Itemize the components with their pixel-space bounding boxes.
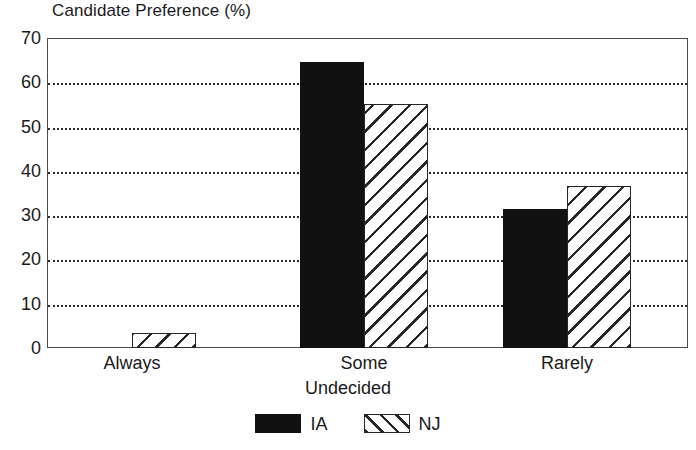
x-axis-tick-label: Some bbox=[294, 352, 434, 374]
y-axis-tick-label: 60 bbox=[1, 73, 41, 91]
chart-legend: IANJ bbox=[0, 414, 696, 433]
y-axis-tick-label: 30 bbox=[1, 206, 41, 224]
y-axis-tick-label: 50 bbox=[1, 118, 41, 136]
gridline bbox=[48, 305, 687, 307]
y-axis-tick-label: 20 bbox=[1, 250, 41, 268]
gridline bbox=[48, 83, 687, 85]
y-axis-tick-label: 0 bbox=[1, 339, 41, 357]
x-axis-tick-label: Always bbox=[62, 352, 202, 374]
y-axis-tick-label: 70 bbox=[1, 29, 41, 47]
gridline bbox=[48, 260, 687, 262]
gridline bbox=[48, 216, 687, 218]
x-axis-title: Undecided bbox=[0, 378, 696, 399]
y-axis-tick-label: 40 bbox=[1, 162, 41, 180]
x-axis-tick-label: Rarely bbox=[497, 352, 637, 374]
plot-area bbox=[47, 38, 688, 348]
y-axis-tick-labels: 010203040506070 bbox=[0, 38, 41, 348]
legend-label: IA bbox=[310, 415, 327, 433]
gridline bbox=[48, 128, 687, 130]
solid-black-swatch bbox=[255, 414, 301, 433]
bar-chart: Candidate Preference (%) 010203040506070… bbox=[0, 0, 696, 450]
legend-label: NJ bbox=[419, 415, 441, 433]
x-axis-tick-labels: AlwaysSomeRarely bbox=[47, 352, 688, 378]
chart-title: Candidate Preference (%) bbox=[52, 1, 251, 21]
gridline bbox=[48, 172, 687, 174]
hatched-swatch bbox=[364, 414, 410, 433]
legend-item-nj: NJ bbox=[364, 414, 441, 433]
legend-item-ia: IA bbox=[255, 414, 327, 433]
y-axis-tick-label: 10 bbox=[1, 295, 41, 313]
